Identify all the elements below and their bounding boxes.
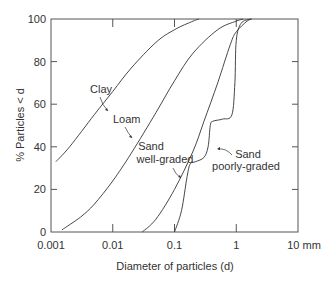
- y-tick-label: 0: [40, 226, 46, 238]
- annotation-clay: Clay: [90, 83, 113, 95]
- curve-sand-poorly-graded: [175, 19, 251, 232]
- x-axis-label: Diameter of particles (d): [116, 260, 233, 272]
- annotation-loam: Loam: [113, 113, 141, 125]
- annotation-sand-poorly-graded-line2: poorly-graded: [212, 160, 280, 172]
- curve-loam: [62, 19, 243, 230]
- annotation-sand-well-graded-line1: Sand: [138, 140, 164, 152]
- curve-clay: [56, 19, 199, 162]
- y-tick-label: 40: [34, 141, 46, 153]
- y-tick-label: 20: [34, 183, 46, 195]
- annotation-sand-well-graded-line2: well-graded: [136, 153, 194, 165]
- y-tick-label: 80: [34, 56, 46, 68]
- y-axis-ticks: 020406080100: [28, 13, 298, 238]
- x-tick-label: 0.001: [37, 239, 65, 251]
- x-axis-ticks: 0.0010.010.1110 mm: [37, 19, 321, 251]
- x-tick-label: 1: [233, 239, 239, 251]
- arrowhead-sand-poorly-graded: [217, 147, 220, 150]
- y-axis-label: % Particles < d: [14, 88, 26, 162]
- y-tick-label: 100: [28, 13, 46, 25]
- x-tick-label: 0.01: [102, 239, 123, 251]
- x-tick-label: 10 mm: [287, 239, 321, 251]
- annotation-sand-poorly-graded-line1: Sand: [235, 148, 261, 160]
- plot-frame: [51, 19, 298, 232]
- y-tick-label: 60: [34, 98, 46, 110]
- leader-sand-poorly-graded: [218, 149, 232, 155]
- particle-size-distribution-chart: 020406080100 0.0010.010.1110 mm % Partic…: [0, 0, 332, 284]
- x-tick-label: 0.1: [167, 239, 182, 251]
- curves: [56, 19, 252, 232]
